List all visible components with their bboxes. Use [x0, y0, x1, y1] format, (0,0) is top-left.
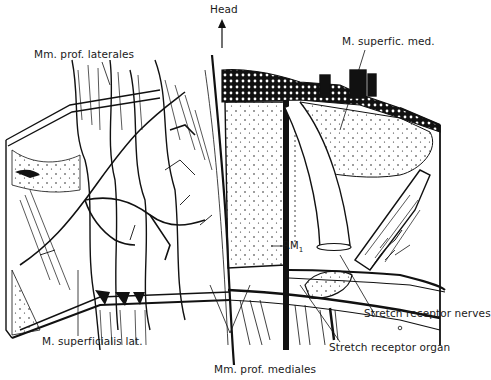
- head-arrow-icon: [218, 19, 226, 48]
- label-stretch-receptor-organ: Stretch receptor organ: [329, 342, 450, 353]
- label-m-superficialis-lat: M. superficialis lat.: [42, 336, 143, 347]
- label-m-superfic-med: M. superfic. med.: [342, 36, 435, 47]
- label-stretch-receptor-nerves: Stretch receptor nerves: [364, 308, 491, 319]
- label-rm1: RM1: [283, 241, 303, 254]
- label-mm-prof-laterales: Mm. prof. laterales: [34, 49, 134, 60]
- label-rm1-prefix: RM: [283, 240, 299, 251]
- left-segment: [6, 60, 230, 350]
- label-head: Head: [210, 4, 238, 15]
- label-rm1-sub: 1: [299, 246, 304, 254]
- label-mm-prof-mediales: Mm. prof. mediales: [214, 364, 316, 375]
